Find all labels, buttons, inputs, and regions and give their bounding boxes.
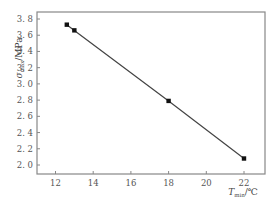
x-tick-label: 12 <box>50 178 61 188</box>
y-tick-label: 2. 2 <box>17 144 33 154</box>
x-axis-label: Tmin/℃ <box>228 187 258 198</box>
y-tick-label: 3. 8 <box>17 14 33 24</box>
x-tick-label: 14 <box>88 178 99 188</box>
data-point-marker <box>242 156 246 160</box>
y-tick-label: 3. 0 <box>17 79 33 89</box>
line-chart: 2. 02. 22. 42. 62. 83. 03. 23. 43. 63. 8… <box>0 0 274 210</box>
data-point-marker <box>166 99 170 103</box>
y-tick-label: 2. 8 <box>17 95 33 105</box>
series-line <box>67 25 244 159</box>
x-tick-label: 16 <box>125 178 136 188</box>
data-point-marker <box>65 22 69 26</box>
plot-border <box>37 12 265 174</box>
data-series <box>65 22 247 160</box>
y-tick-label: 2. 6 <box>17 111 33 121</box>
plot-frame <box>37 12 265 174</box>
x-tick-label: 18 <box>163 178 174 188</box>
y-tick-label: 2. 0 <box>17 160 33 170</box>
y-axis-label: σmax/MPa <box>14 37 25 79</box>
data-point-marker <box>72 28 76 32</box>
y-tick-label: 2. 4 <box>17 128 33 138</box>
x-tick-label: 20 <box>201 178 212 188</box>
